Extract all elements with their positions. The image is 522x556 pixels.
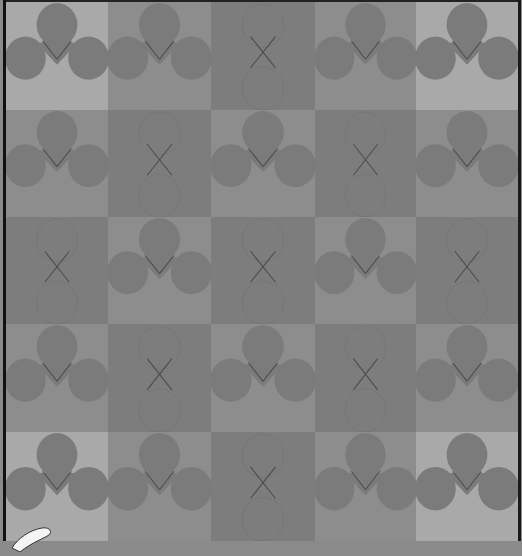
tile-trefoil bbox=[416, 2, 518, 110]
tile-cross bbox=[211, 2, 315, 110]
tile-trefoil bbox=[315, 217, 416, 324]
tile-trefoil bbox=[315, 432, 416, 541]
tile-trefoil bbox=[315, 2, 416, 110]
tile-trefoil bbox=[108, 432, 211, 541]
tile-cross bbox=[315, 324, 416, 432]
tile-board bbox=[6, 2, 518, 541]
tile-trefoil bbox=[6, 110, 108, 217]
tile-trefoil bbox=[416, 110, 518, 217]
tile-cross bbox=[211, 432, 315, 541]
tile-trefoil bbox=[108, 217, 211, 324]
tile-trefoil bbox=[416, 432, 518, 541]
white-hand-pointer-icon bbox=[8, 522, 58, 552]
tile-trefoil bbox=[211, 110, 315, 217]
tile-cross bbox=[211, 217, 315, 324]
tile-cross bbox=[416, 217, 518, 324]
tile-trefoil bbox=[6, 2, 108, 110]
tile-trefoil bbox=[6, 324, 108, 432]
tile-trefoil bbox=[108, 2, 211, 110]
tile-cross bbox=[315, 110, 416, 217]
frame-border-right bbox=[518, 0, 521, 541]
tile-cross bbox=[108, 110, 211, 217]
tile-cross bbox=[6, 217, 108, 324]
tile-trefoil bbox=[211, 324, 315, 432]
tile-cross bbox=[108, 324, 211, 432]
tile-trefoil bbox=[416, 324, 518, 432]
